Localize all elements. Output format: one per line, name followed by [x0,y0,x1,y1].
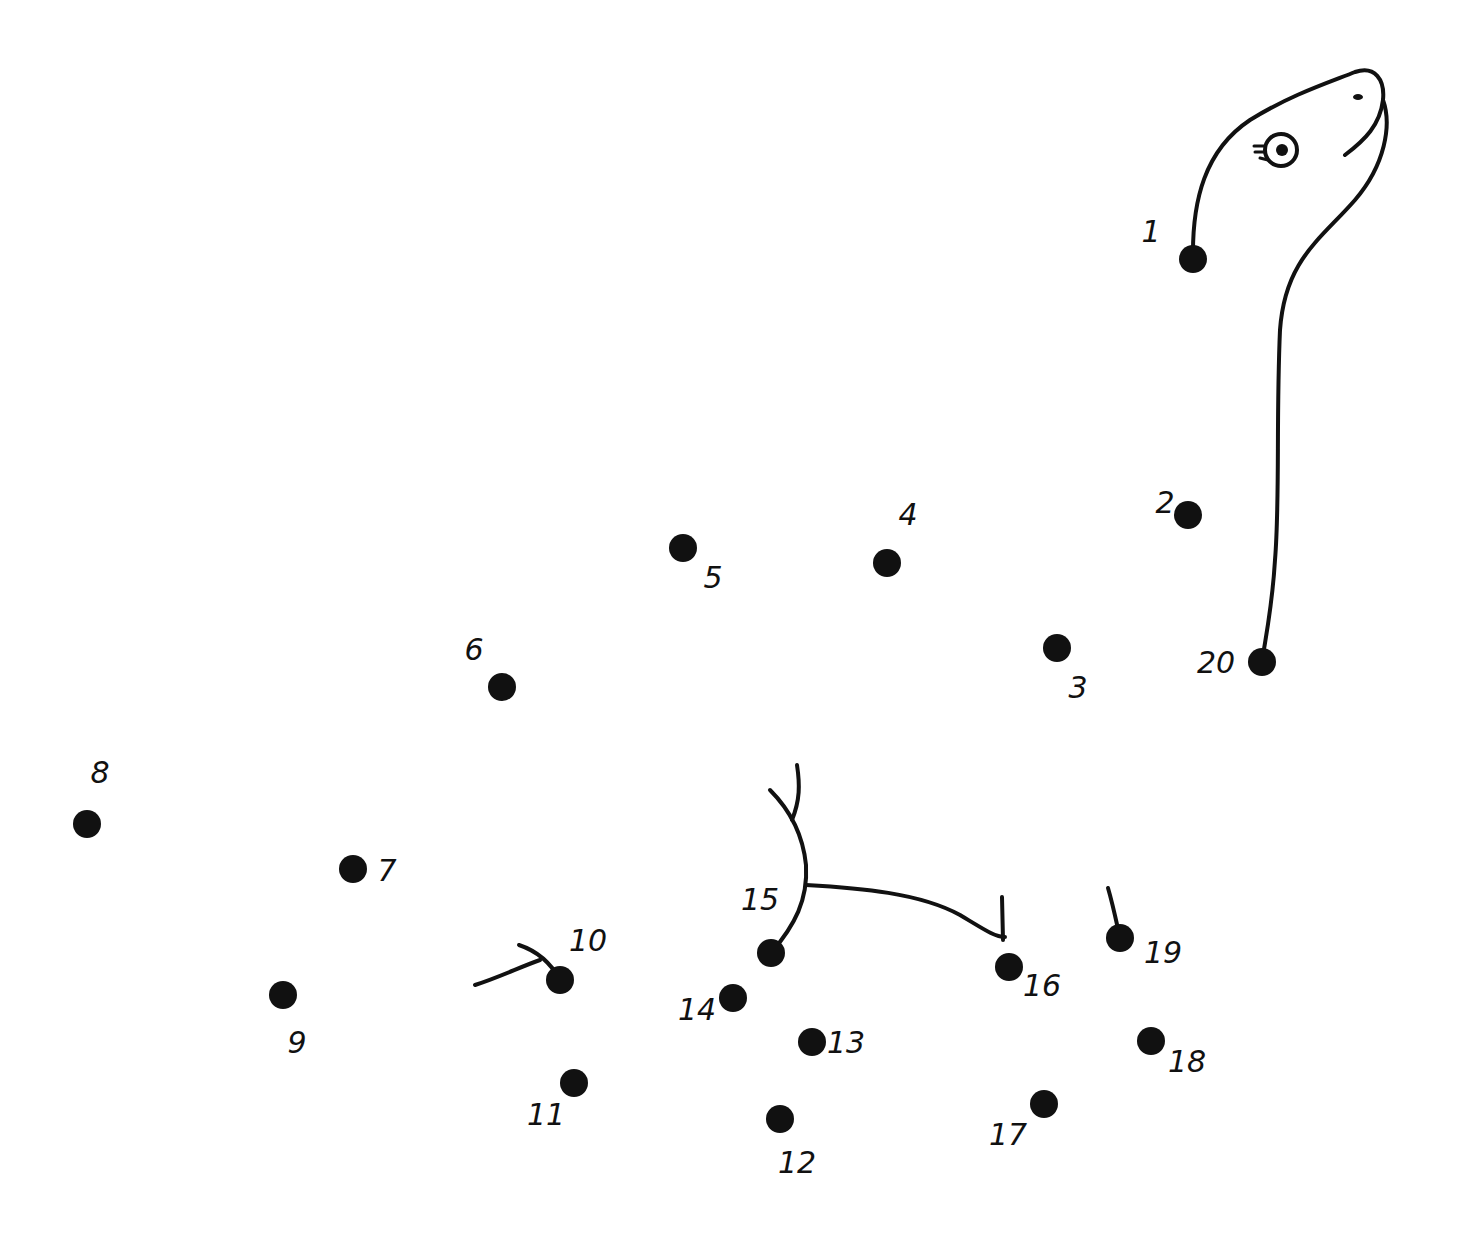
dot-label-20: 20 [1197,648,1235,678]
dot-14[interactable] [719,984,747,1012]
dot-17[interactable] [1030,1090,1058,1118]
dot-label-10: 10 [569,926,607,956]
dot-label-18: 18 [1168,1047,1206,1077]
dot-16[interactable] [995,953,1023,981]
dot-label-3: 3 [1068,673,1087,703]
dot-15[interactable] [757,939,785,967]
dot-19[interactable] [1106,924,1134,952]
dot-label-8: 8 [90,758,109,788]
dot-11[interactable] [560,1069,588,1097]
dot-label-12: 12 [778,1148,816,1178]
dot-label-6: 6 [464,635,483,665]
dot-5[interactable] [669,534,697,562]
dot-9[interactable] [269,981,297,1009]
dot-20[interactable] [1248,648,1276,676]
dot-18[interactable] [1137,1027,1165,1055]
dot-label-19: 19 [1144,938,1182,968]
dots-layer: 1234567891011121314151617181920 [0,0,1458,1249]
dot-13[interactable] [798,1028,826,1056]
dot-3[interactable] [1043,634,1071,662]
dot-8[interactable] [73,810,101,838]
dot-label-7: 7 [377,856,396,886]
dot-label-4: 4 [898,500,917,530]
dot-label-16: 16 [1023,971,1061,1001]
dot-10[interactable] [546,966,574,994]
dot-label-14: 14 [678,995,716,1025]
dot-12[interactable] [766,1105,794,1133]
dot-7[interactable] [339,855,367,883]
dot-label-2: 2 [1155,488,1174,518]
dot-2[interactable] [1174,501,1202,529]
dot-label-5: 5 [703,563,722,593]
dot-6[interactable] [488,673,516,701]
dot-label-9: 9 [287,1028,306,1058]
dot-label-1: 1 [1141,217,1160,247]
dot-label-17: 17 [989,1120,1027,1150]
dot-1[interactable] [1179,245,1207,273]
dot-label-11: 11 [527,1100,565,1130]
dot-4[interactable] [873,549,901,577]
dot-label-15: 15 [741,885,779,915]
dot-label-13: 13 [827,1028,865,1058]
